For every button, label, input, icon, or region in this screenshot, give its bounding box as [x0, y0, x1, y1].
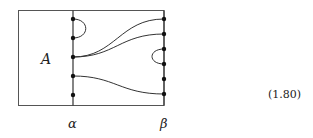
strand-76-to-94: [73, 76, 164, 94]
diagram-canvas: A α β (1.80): [0, 0, 313, 138]
equation-number: (1.80): [268, 88, 301, 101]
right-cup-curve: [152, 49, 164, 64]
strand-57-to-19: [73, 19, 164, 57]
beta-label: β: [159, 116, 168, 131]
region-label-a: A: [39, 51, 51, 67]
alpha-label: α: [68, 116, 77, 131]
left-cap-curve: [73, 19, 86, 38]
